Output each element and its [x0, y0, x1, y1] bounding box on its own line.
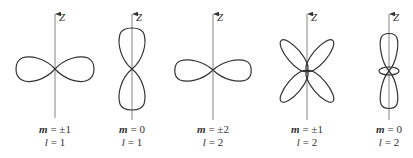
- panel-m-0-l-2: [379, 14, 399, 120]
- z-axis-label: Z: [311, 11, 317, 23]
- m-value: = 0: [387, 123, 401, 135]
- m-symbol: m: [197, 123, 206, 135]
- l-value: = 1: [51, 136, 65, 148]
- m-value: = ±2: [208, 123, 229, 135]
- m-symbol: m: [119, 123, 128, 135]
- panel-m-pm1-l-2: [276, 14, 338, 120]
- l-symbol: l: [379, 136, 382, 148]
- panel-m-pm1-l-1: [16, 14, 94, 118]
- l-symbol: l: [297, 136, 300, 148]
- l-symbol: l: [203, 136, 206, 148]
- quantum-label-p3: m = ±2 l = 2: [183, 123, 243, 149]
- panel-m-0-l-1: [119, 14, 145, 120]
- panel-m-pm2-l-2: [175, 14, 252, 120]
- z-axis-label: Z: [136, 11, 142, 23]
- z-axis-label: Z: [393, 11, 399, 23]
- m-symbol: m: [291, 123, 300, 135]
- l-value: = 2: [385, 136, 399, 148]
- quantum-label-p4: m = ±1 l = 2: [277, 123, 337, 149]
- m-value: = ±1: [50, 123, 71, 135]
- m-value: = 0: [130, 123, 144, 135]
- l-value: = 2: [303, 136, 317, 148]
- z-axis-label: Z: [217, 11, 223, 23]
- l-value: = 2: [209, 136, 223, 148]
- m-symbol: m: [376, 123, 385, 135]
- l-value: = 1: [128, 136, 142, 148]
- m-symbol: m: [39, 123, 48, 135]
- m-value: = ±1: [302, 123, 323, 135]
- quantum-label-p1: m = ±1 l = 1: [25, 123, 85, 149]
- z-axis-label: Z: [59, 11, 65, 23]
- l-symbol: l: [45, 136, 48, 148]
- quantum-label-p2: m = 0 l = 1: [102, 123, 162, 149]
- quantum-label-p5: m = 0 l = 2: [359, 123, 413, 149]
- l-symbol: l: [122, 136, 125, 148]
